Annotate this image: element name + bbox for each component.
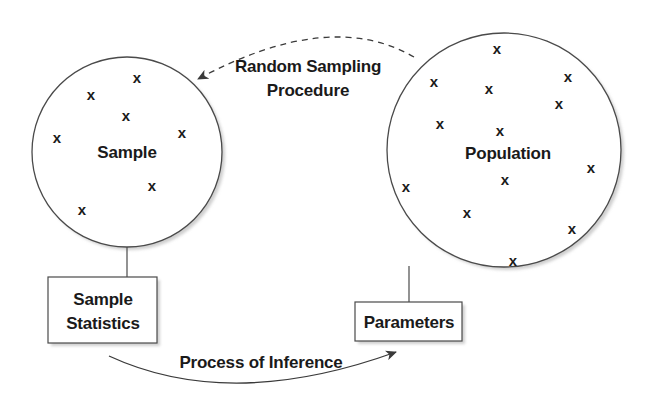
random-sampling-line2: Procedure	[267, 81, 349, 100]
sample-circle-group: Sample xxxxxxx	[32, 57, 225, 250]
sample-label: Sample	[97, 143, 156, 162]
data-point-marker: x	[78, 201, 87, 218]
sample-statistics-line2: Statistics	[66, 314, 140, 333]
data-point-marker: x	[87, 86, 96, 103]
random-sampling-line1: Random Sampling	[235, 57, 381, 76]
diagram-canvas: Sample xxxxxxx Population xxxxxxxxxxxxx …	[0, 0, 647, 399]
parameters-box: Parameters	[355, 302, 465, 344]
sample-statistics-line1: Sample	[73, 290, 132, 309]
data-point-marker: x	[463, 204, 472, 221]
sample-statistics-box: Sample Statistics	[48, 277, 160, 346]
data-point-marker: x	[564, 68, 573, 85]
data-point-marker: x	[568, 220, 577, 237]
data-point-marker: x	[133, 69, 142, 86]
data-point-marker: x	[493, 40, 502, 57]
data-point-marker: x	[555, 95, 564, 112]
data-point-marker: x	[485, 80, 494, 97]
data-point-marker: x	[430, 73, 439, 90]
inference-arrow: Process of Inference	[109, 352, 396, 383]
data-point-marker: x	[496, 122, 505, 139]
data-point-marker: x	[501, 171, 510, 188]
sampling-inference-diagram: Sample xxxxxxx Population xxxxxxxxxxxxx …	[0, 0, 647, 399]
population-label: Population	[465, 144, 551, 163]
population-circle-group: Population xxxxxxxxxxxxx	[387, 33, 624, 270]
data-point-marker: x	[122, 107, 131, 124]
data-point-marker: x	[148, 177, 157, 194]
data-point-marker: x	[53, 129, 62, 146]
process-of-inference-label: Process of Inference	[179, 353, 342, 372]
sample-statistics-rect	[48, 277, 157, 343]
data-point-marker: x	[436, 115, 445, 132]
data-point-marker: x	[178, 124, 187, 141]
parameters-label: Parameters	[364, 313, 455, 332]
data-point-marker: x	[402, 178, 411, 195]
random-sampling-arrow: Random Sampling Procedure	[198, 37, 414, 100]
data-point-marker: x	[587, 159, 596, 176]
data-point-marker: x	[509, 252, 518, 269]
